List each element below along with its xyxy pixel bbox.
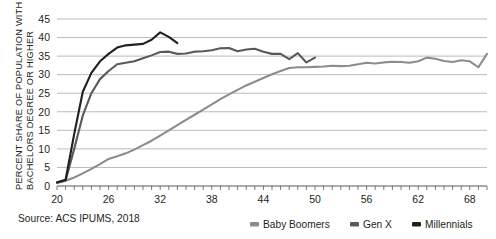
legend-swatch (412, 222, 421, 227)
gridlines (57, 19, 487, 167)
y-tick-label-45: 45 (38, 13, 50, 25)
x-tick-label-62: 62 (412, 193, 424, 205)
legend-label: Gen X (363, 219, 392, 230)
x-tick-labels: 202632384450566268 (51, 193, 476, 205)
data-series-group (57, 32, 487, 183)
y-tick-label-20: 20 (38, 106, 50, 118)
chart-container: PERCENT SHARE OF POPULATION WITH BACHELO… (0, 0, 496, 239)
legend-item-millennials[interactable]: Millennials (412, 219, 473, 230)
x-axis (57, 186, 487, 190)
y-tick-label-25: 25 (38, 87, 50, 99)
x-tick-label-56: 56 (361, 193, 373, 205)
y-tick-label-15: 15 (38, 124, 50, 136)
legend-label: Baby Boomers (263, 219, 330, 230)
x-tick-label-26: 26 (103, 193, 115, 205)
legend-swatch (250, 222, 259, 227)
x-tick-label-38: 38 (206, 193, 218, 205)
y-tick-label-40: 40 (38, 31, 50, 43)
y-tick-label-5: 5 (44, 161, 50, 173)
line-chart: PERCENT SHARE OF POPULATION WITH BACHELO… (0, 0, 496, 239)
legend-item-baby-boomers[interactable]: Baby Boomers (250, 219, 330, 230)
legend-swatch (350, 222, 359, 227)
y-axis-title-line2: BACHELORS DEGREE OR HIGHER (25, 31, 35, 190)
x-tick-label-68: 68 (464, 193, 476, 205)
x-tick-label-20: 20 (51, 193, 63, 205)
x-tick-label-32: 32 (154, 193, 166, 205)
y-tick-label-35: 35 (38, 50, 50, 62)
y-axis-title-line1: PERCENT SHARE OF POPULATION WITH (14, 2, 24, 190)
x-tick-label-44: 44 (258, 193, 270, 205)
series-line-millennials (57, 32, 177, 182)
legend-label: Millennials (425, 219, 473, 230)
x-tick-label-50: 50 (309, 193, 321, 205)
series-line-baby-boomers (57, 54, 487, 183)
legend: Baby BoomersGen XMillennials (250, 219, 473, 230)
source-note: Source: ACS IPUMS, 2018 (18, 213, 140, 224)
y-tick-label-0: 0 (44, 180, 50, 192)
legend-item-gen-x[interactable]: Gen X (350, 219, 392, 230)
y-tick-labels: 051015202530354045 (38, 13, 50, 192)
y-axis-title: PERCENT SHARE OF POPULATION WITH BACHELO… (14, 2, 35, 190)
y-tick-label-30: 30 (38, 68, 50, 80)
y-tick-label-10: 10 (38, 143, 50, 155)
